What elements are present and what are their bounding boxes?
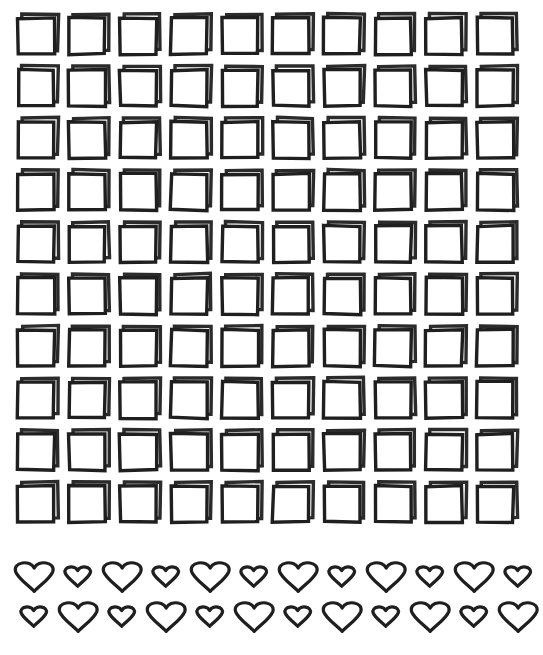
- square-checkbox[interactable]: [423, 117, 467, 161]
- heart-large[interactable]: [406, 593, 454, 637]
- square-checkbox[interactable]: [423, 429, 467, 473]
- square-checkbox[interactable]: [372, 481, 416, 525]
- square-checkbox[interactable]: [15, 429, 59, 473]
- square-checkbox[interactable]: [270, 65, 314, 109]
- square-checkbox[interactable]: [66, 65, 110, 109]
- square-checkbox[interactable]: [66, 325, 110, 369]
- square-checkbox[interactable]: [321, 221, 365, 265]
- square-checkbox[interactable]: [474, 13, 518, 57]
- square-checkbox[interactable]: [66, 221, 110, 265]
- square-checkbox[interactable]: [270, 325, 314, 369]
- heart-large[interactable]: [362, 553, 410, 597]
- square-checkbox[interactable]: [15, 117, 59, 161]
- square-checkbox[interactable]: [270, 377, 314, 421]
- square-checkbox[interactable]: [321, 65, 365, 109]
- square-checkbox[interactable]: [219, 273, 263, 317]
- heart-small[interactable]: [148, 559, 183, 592]
- square-checkbox[interactable]: [117, 377, 161, 421]
- square-checkbox[interactable]: [168, 13, 212, 57]
- square-checkbox[interactable]: [270, 221, 314, 265]
- heart-large[interactable]: [10, 553, 58, 597]
- square-checkbox[interactable]: [15, 325, 59, 369]
- square-checkbox[interactable]: [219, 117, 263, 161]
- square-checkbox[interactable]: [219, 65, 263, 109]
- square-checkbox[interactable]: [168, 273, 212, 317]
- square-checkbox[interactable]: [15, 169, 59, 213]
- square-checkbox[interactable]: [321, 117, 365, 161]
- square-checkbox[interactable]: [15, 273, 59, 317]
- square-checkbox[interactable]: [321, 429, 365, 473]
- square-checkbox[interactable]: [270, 117, 314, 161]
- square-checkbox[interactable]: [168, 169, 212, 213]
- square-checkbox[interactable]: [219, 221, 263, 265]
- square-checkbox[interactable]: [168, 117, 212, 161]
- square-checkbox[interactable]: [219, 169, 263, 213]
- heart-large[interactable]: [142, 593, 190, 637]
- square-checkbox[interactable]: [66, 429, 110, 473]
- square-checkbox[interactable]: [66, 273, 110, 317]
- heart-large[interactable]: [494, 593, 542, 637]
- square-checkbox[interactable]: [474, 429, 518, 473]
- square-checkbox[interactable]: [372, 377, 416, 421]
- heart-small[interactable]: [412, 559, 447, 592]
- heart-small[interactable]: [324, 559, 359, 592]
- heart-large[interactable]: [98, 553, 146, 597]
- square-checkbox[interactable]: [321, 377, 365, 421]
- heart-small[interactable]: [280, 599, 315, 632]
- square-checkbox[interactable]: [423, 13, 467, 57]
- square-checkbox[interactable]: [15, 377, 59, 421]
- square-checkbox[interactable]: [321, 169, 365, 213]
- square-checkbox[interactable]: [15, 65, 59, 109]
- square-checkbox[interactable]: [321, 273, 365, 317]
- square-checkbox[interactable]: [372, 273, 416, 317]
- square-checkbox[interactable]: [168, 481, 212, 525]
- square-checkbox[interactable]: [372, 221, 416, 265]
- heart-small[interactable]: [104, 599, 139, 632]
- square-checkbox[interactable]: [372, 117, 416, 161]
- square-checkbox[interactable]: [117, 65, 161, 109]
- square-checkbox[interactable]: [117, 169, 161, 213]
- square-checkbox[interactable]: [474, 169, 518, 213]
- heart-small[interactable]: [500, 559, 535, 592]
- square-checkbox[interactable]: [219, 377, 263, 421]
- square-checkbox[interactable]: [168, 65, 212, 109]
- square-checkbox[interactable]: [15, 13, 59, 57]
- square-checkbox[interactable]: [372, 13, 416, 57]
- heart-small[interactable]: [16, 599, 51, 632]
- heart-small[interactable]: [236, 559, 271, 592]
- square-checkbox[interactable]: [423, 377, 467, 421]
- heart-large[interactable]: [186, 553, 234, 597]
- square-checkbox[interactable]: [321, 325, 365, 369]
- heart-large[interactable]: [54, 593, 102, 637]
- heart-large[interactable]: [230, 593, 278, 637]
- square-checkbox[interactable]: [474, 117, 518, 161]
- square-checkbox[interactable]: [66, 13, 110, 57]
- square-checkbox[interactable]: [66, 169, 110, 213]
- heart-small[interactable]: [456, 599, 491, 632]
- square-checkbox[interactable]: [270, 273, 314, 317]
- square-checkbox[interactable]: [117, 13, 161, 57]
- square-checkbox[interactable]: [474, 221, 518, 265]
- square-checkbox[interactable]: [474, 481, 518, 525]
- square-checkbox[interactable]: [372, 65, 416, 109]
- square-checkbox[interactable]: [321, 13, 365, 57]
- square-checkbox[interactable]: [117, 429, 161, 473]
- square-checkbox[interactable]: [474, 325, 518, 369]
- square-checkbox[interactable]: [15, 481, 59, 525]
- square-checkbox[interactable]: [372, 325, 416, 369]
- square-checkbox[interactable]: [270, 481, 314, 525]
- heart-small[interactable]: [192, 599, 227, 632]
- square-checkbox[interactable]: [321, 481, 365, 525]
- square-checkbox[interactable]: [66, 117, 110, 161]
- square-checkbox[interactable]: [423, 65, 467, 109]
- square-checkbox[interactable]: [270, 429, 314, 473]
- square-checkbox[interactable]: [270, 169, 314, 213]
- square-checkbox[interactable]: [219, 429, 263, 473]
- heart-large[interactable]: [450, 553, 498, 597]
- square-checkbox[interactable]: [66, 377, 110, 421]
- square-checkbox[interactable]: [66, 481, 110, 525]
- heart-large[interactable]: [274, 553, 322, 597]
- square-checkbox[interactable]: [372, 429, 416, 473]
- heart-large[interactable]: [318, 593, 366, 637]
- square-checkbox[interactable]: [423, 273, 467, 317]
